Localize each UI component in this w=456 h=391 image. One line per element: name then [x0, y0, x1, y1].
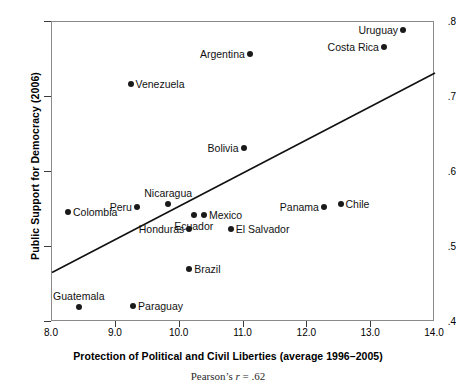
x-tick-label: 14.0	[414, 327, 454, 338]
data-point-label: Paraguay	[138, 300, 183, 312]
x-tick-label: 9.0	[95, 327, 135, 338]
plot-area: UruguayCosta RicaArgentinaVenezuelaBoliv…	[51, 21, 434, 321]
data-point[interactable]	[228, 226, 234, 232]
data-point[interactable]	[338, 201, 344, 207]
data-point-label: Uruguay	[358, 24, 398, 36]
x-tick-label: 11.0	[223, 327, 263, 338]
x-tick-label: 10.0	[159, 327, 199, 338]
data-point-label: Brazil	[194, 263, 220, 275]
data-point-label: Costa Rica	[328, 41, 379, 53]
data-point[interactable]	[76, 304, 82, 310]
regression-line-svg	[52, 22, 435, 322]
data-point[interactable]	[186, 266, 192, 272]
y-tick-mark	[44, 171, 51, 172]
data-point-label: Nicaragua	[144, 187, 192, 199]
data-point[interactable]	[381, 44, 387, 50]
y-axis-title: Public Support for Democracy (2006)	[29, 36, 41, 296]
data-point[interactable]	[201, 212, 207, 218]
x-tick-label: 12.0	[286, 327, 326, 338]
x-axis-title: Protection of Political and Civil Libert…	[0, 350, 456, 362]
data-point[interactable]	[65, 209, 71, 215]
data-point[interactable]	[241, 145, 247, 151]
data-point-label: Argentina	[200, 48, 245, 60]
y-tick-mark	[44, 21, 51, 22]
data-point-label: Panama	[280, 201, 319, 213]
regression-line	[52, 73, 435, 273]
data-point-label: Colombia	[73, 206, 117, 218]
data-point-label: Venezuela	[136, 78, 185, 90]
y-tick-mark	[44, 321, 51, 322]
data-point[interactable]	[128, 81, 134, 87]
x-tick-label: 13.0	[350, 327, 390, 338]
data-point-label: Bolivia	[208, 142, 239, 154]
data-point-label: Mexico	[209, 209, 242, 221]
data-point-label: Chile	[346, 198, 370, 210]
data-point[interactable]	[191, 212, 197, 218]
caption-value: = .62	[240, 370, 265, 382]
y-tick-mark	[44, 246, 51, 247]
x-tick-label: 8.0	[31, 327, 71, 338]
data-point-label: Honduras	[139, 223, 185, 235]
data-point-label: Guatemala	[53, 290, 104, 302]
caption-prefix: Pearson’s	[191, 370, 236, 382]
data-point-label: El Salvador	[236, 223, 290, 235]
scatter-plot-figure: Public Support for Democracy (2006) .4.5…	[0, 0, 456, 391]
y-tick-mark	[44, 96, 51, 97]
pearson-correlation-caption: Pearson’s r = .62	[0, 370, 456, 382]
